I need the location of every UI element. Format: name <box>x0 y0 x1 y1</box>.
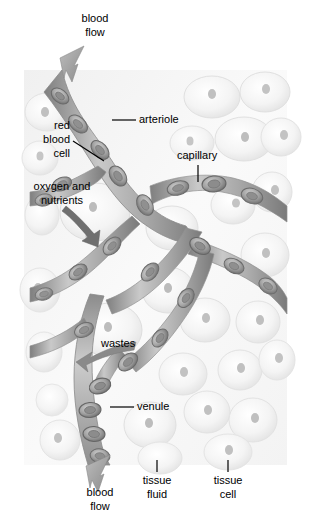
figure-canvas: blood flow red blood cell oxygen and nut… <box>0 0 310 525</box>
label-red-blood-cell-line3: cell <box>53 147 70 159</box>
label-blood-flow-bottom-line1: blood <box>87 486 114 498</box>
label-capillary: capillary <box>177 149 218 161</box>
label-blood-flow-top-line2: flow <box>85 26 105 38</box>
label-oxygen-nutrients-line2: nutrients <box>41 194 84 206</box>
label-red-blood-cell-line1: red <box>54 119 70 131</box>
label-tissue-cell-line1: tissue <box>214 474 243 486</box>
label-tissue-fluid-line2: fluid <box>147 488 167 500</box>
label-tissue-cell-line2: cell <box>220 488 237 500</box>
label-oxygen-nutrients-line1: oxygen and <box>34 180 91 192</box>
label-red-blood-cell-line2: blood <box>43 133 70 145</box>
label-blood-flow-bottom-line2: flow <box>90 500 110 512</box>
label-venule: venule <box>137 400 169 412</box>
label-blood-flow-top-line1: blood <box>82 12 109 24</box>
label-tissue-fluid-line1: tissue <box>143 474 172 486</box>
label-wastes: wastes <box>100 337 136 349</box>
label-arteriole: arteriole <box>139 113 179 125</box>
capillary-bed-diagram: blood flow red blood cell oxygen and nut… <box>0 0 310 525</box>
